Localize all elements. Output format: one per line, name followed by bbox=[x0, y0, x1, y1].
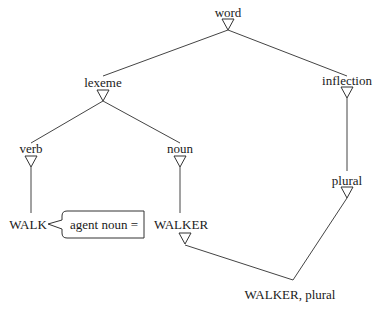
node-inflection: inflection bbox=[322, 73, 372, 88]
triangle-icon bbox=[341, 87, 353, 98]
node-walker: WALKER bbox=[154, 217, 208, 232]
callout-text: agent noun = bbox=[70, 217, 138, 232]
node-walk: WALK bbox=[9, 217, 47, 232]
node-plural: plural bbox=[332, 173, 363, 188]
node-noun: noun bbox=[167, 141, 194, 156]
triangle-icon bbox=[179, 233, 191, 244]
edge-lexeme-verb bbox=[31, 101, 103, 143]
edge-lexeme-noun bbox=[103, 101, 180, 143]
triangle-icon bbox=[222, 19, 234, 30]
node-word: word bbox=[215, 5, 242, 20]
inheritance-diagram: word lexeme inflection verb noun plural … bbox=[0, 0, 383, 314]
triangle-icon bbox=[25, 156, 37, 167]
node-lexeme: lexeme bbox=[84, 75, 122, 90]
edge-to-walker-plural bbox=[185, 198, 347, 280]
triangle-icon bbox=[97, 90, 109, 101]
edge-word-lexeme bbox=[103, 30, 228, 76]
node-verb: verb bbox=[19, 141, 42, 156]
triangle-icon bbox=[341, 187, 353, 198]
node-walker-plural: WALKER, plural bbox=[245, 287, 336, 302]
triangle-icon bbox=[174, 156, 186, 167]
edge-word-inflection bbox=[228, 30, 347, 76]
